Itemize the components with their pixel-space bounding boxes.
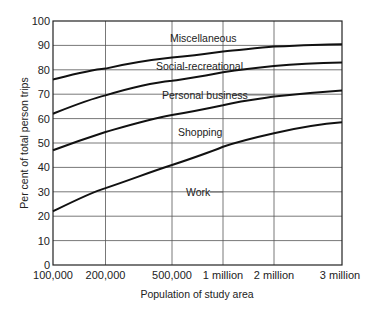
y-axis-ticks: 0 10 20 30 40 50 60 70 80 90 100 <box>32 15 50 271</box>
y-axis-title: Per cent of total person trips <box>18 77 30 208</box>
svg-text:40: 40 <box>38 161 50 173</box>
horizontal-gridlines <box>53 45 342 240</box>
svg-text:2 million: 2 million <box>254 269 294 281</box>
svg-text:10: 10 <box>38 235 50 247</box>
label-miscellaneous: Miscellaneous <box>170 32 237 44</box>
x-axis-title: Population of study area <box>140 288 253 300</box>
svg-text:30: 30 <box>38 186 50 198</box>
svg-text:200,000: 200,000 <box>86 269 126 281</box>
svg-text:3 million: 3 million <box>320 269 360 281</box>
label-social-recreational: Social-recreational <box>156 60 243 72</box>
label-personal-business: Personal business <box>162 89 248 101</box>
svg-text:50: 50 <box>38 137 50 149</box>
svg-text:80: 80 <box>38 64 50 76</box>
svg-text:70: 70 <box>38 88 50 100</box>
x-axis-ticks: 100,000 200,000 500,000 1 million 2 mill… <box>33 269 360 281</box>
label-work: Work <box>186 186 211 198</box>
svg-text:100,000: 100,000 <box>33 269 73 281</box>
svg-text:100: 100 <box>32 15 50 27</box>
svg-text:60: 60 <box>38 113 50 125</box>
label-shopping: Shopping <box>178 126 223 138</box>
trip-purpose-chart: Miscellaneous Social-recreational Person… <box>0 0 374 309</box>
svg-text:1 million: 1 million <box>203 269 243 281</box>
svg-text:20: 20 <box>38 210 50 222</box>
svg-text:90: 90 <box>38 39 50 51</box>
svg-text:500,000: 500,000 <box>152 269 192 281</box>
